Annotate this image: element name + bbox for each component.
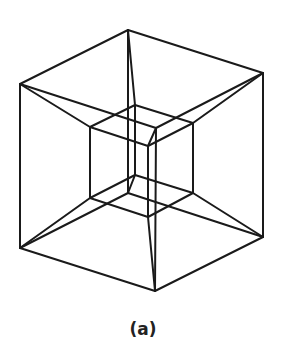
edge-G-H [155,237,263,291]
edge-E-H [20,248,155,291]
edge-b-d [90,127,148,146]
tesseract-figure: (a) [0,0,282,348]
edge-G-g [193,193,263,237]
edge-H-h [148,217,155,291]
edge-A-B [20,30,128,84]
edge-A-C [128,30,263,73]
edge-E-e [20,198,90,248]
tesseract-wireframe [0,0,282,348]
edge-B-b [20,84,90,127]
edge-c-d [148,123,193,146]
edge-C-c [193,73,263,123]
edge-A-a [128,30,135,105]
edge-E-Q [20,193,128,248]
edge-f-g [135,175,193,193]
figure-caption: (a) [0,319,282,339]
edge-C-P [156,73,263,128]
edge-P-H [155,128,156,291]
